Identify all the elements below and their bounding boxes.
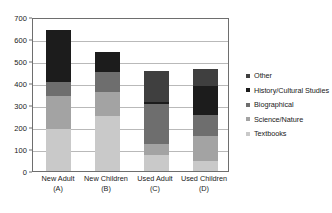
x-axis-label-b: New Children (B) — [80, 174, 132, 193]
y-axis-label-300: 300 — [14, 102, 27, 111]
y-axis-label-200: 200 — [14, 124, 27, 133]
x-axis-label-c: Used Adult (C) — [130, 174, 180, 193]
bar-segment-science-nature — [95, 92, 120, 116]
x-axis-label-d-line1: Used Children — [181, 174, 227, 183]
bar-segment-textbooks — [95, 116, 120, 171]
legend-item-label: Other — [254, 71, 272, 80]
bar-segment-history-cultural-studies — [46, 30, 71, 82]
x-axis-label-b-line2: (B) — [80, 184, 132, 194]
bar-segment-history-cultural-studies — [144, 102, 169, 104]
bars-layer — [33, 19, 228, 171]
x-axis-label-b-line1: New Children — [84, 174, 128, 183]
legend-item-label: Science/Nature — [254, 115, 303, 124]
plot-area — [32, 18, 229, 172]
bar-d — [193, 69, 218, 171]
y-axis-label-500: 500 — [14, 58, 27, 67]
bar-b — [95, 52, 120, 171]
x-axis-label-c-line2: (C) — [130, 184, 180, 194]
bar-segment-history-cultural-studies — [95, 52, 120, 72]
bar-segment-science-nature — [193, 136, 218, 161]
legend-swatch-icon — [246, 88, 250, 92]
legend-swatch-icon — [246, 132, 250, 136]
bar-segment-other — [144, 71, 169, 101]
legend-item-history-cultural-studies[interactable]: History/Cultural Studies — [246, 85, 332, 97]
chart-legend: OtherHistory/Cultural StudiesBiographica… — [246, 70, 332, 143]
x-axis-label-d: Used Children (D) — [178, 174, 230, 193]
bar-segment-biographical — [46, 82, 71, 96]
bar-segment-textbooks — [193, 161, 218, 171]
bar-segment-history-cultural-studies — [193, 86, 218, 114]
x-axis-label-c-line1: Used Adult — [137, 174, 172, 183]
bar-c — [144, 71, 169, 171]
y-axis-label-0: 0 — [23, 168, 27, 177]
legend-swatch-icon — [246, 117, 250, 121]
bar-segment-science-nature — [144, 144, 169, 155]
bar-a — [46, 30, 71, 171]
x-axis-label-a: New Adult (A) — [32, 174, 84, 193]
bar-segment-biographical — [193, 115, 218, 137]
legend-item-label: History/Cultural Studies — [254, 86, 329, 95]
legend-swatch-icon — [246, 74, 250, 78]
bar-segment-other — [193, 69, 218, 87]
bar-segment-textbooks — [46, 129, 71, 171]
y-axis: 700 600 500 400 300 200 100 0 — [0, 18, 32, 172]
legend-item-textbooks[interactable]: Textbooks — [246, 128, 332, 140]
legend-item-science-nature[interactable]: Science/Nature — [246, 114, 332, 126]
legend-item-label: Textbooks — [254, 129, 286, 138]
y-axis-label-600: 600 — [14, 36, 27, 45]
x-axis-label-d-line2: (D) — [178, 184, 230, 194]
bar-segment-biographical — [95, 72, 120, 92]
bar-segment-biographical — [144, 104, 169, 144]
stacked-bar-chart: 700 600 500 400 300 200 100 0 New Adult … — [0, 0, 332, 213]
bar-segment-science-nature — [46, 96, 71, 129]
y-axis-label-100: 100 — [14, 146, 27, 155]
y-axis-label-700: 700 — [14, 14, 27, 23]
x-axis-label-a-line1: New Adult — [42, 174, 75, 183]
legend-item-biographical[interactable]: Biographical — [246, 99, 332, 111]
bar-segment-textbooks — [144, 155, 169, 171]
x-axis-label-a-line2: (A) — [32, 184, 84, 194]
y-axis-label-400: 400 — [14, 80, 27, 89]
legend-item-other[interactable]: Other — [246, 70, 332, 82]
legend-item-label: Biographical — [254, 100, 294, 109]
legend-swatch-icon — [246, 103, 250, 107]
x-axis: New Adult (A) New Children (B) Used Adul… — [32, 174, 229, 204]
